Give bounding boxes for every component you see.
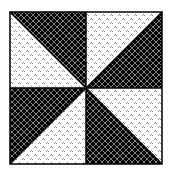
pinwheel-quilt-block	[0, 0, 169, 174]
block-outline	[10, 12, 162, 164]
